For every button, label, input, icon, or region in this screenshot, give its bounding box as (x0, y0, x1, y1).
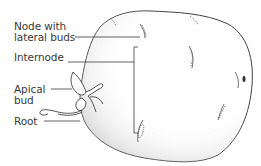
label-node-line2: lateral buds (14, 32, 75, 43)
label-apical-bud: Apical bud (14, 84, 45, 106)
label-apical-line2: bud (14, 95, 45, 106)
root (40, 110, 82, 116)
tuber-body (80, 11, 252, 162)
label-root: Root (14, 116, 37, 127)
label-node-with-lateral-buds: Node with lateral buds (14, 21, 75, 43)
label-internode: Internode (14, 52, 64, 63)
potato-diagram: Node with lateral buds Internode Apical … (0, 0, 261, 166)
